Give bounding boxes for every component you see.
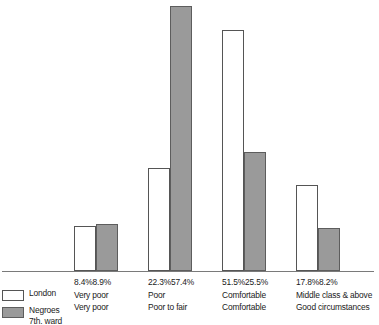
bar-negroes-poor <box>170 6 192 271</box>
legend-label-negroes-line1: Negroes <box>29 305 60 315</box>
bar-negroes-comfortable <box>244 152 266 271</box>
value-label-negroes-poor: 57.4% <box>171 277 194 287</box>
bar-london-comfortable <box>222 30 244 271</box>
legend: London Negroes7th. ward <box>2 289 72 323</box>
legend-label-london: London <box>29 288 56 299</box>
bar-negroes-very-poor <box>96 224 118 271</box>
bar-london-middle-class <box>296 185 318 271</box>
legend-item-london: London <box>2 289 72 305</box>
category-label-london-middle-class: Middle class & above <box>296 289 379 302</box>
value-label-negroes-comfortable: 25.5% <box>245 277 268 287</box>
legend-label-negroes-line2: 7th. ward <box>29 316 62 325</box>
value-label-london-poor: 22.3% <box>148 277 171 287</box>
category-column-middle-class: 17.8%8.2% Middle class & above Good circ… <box>296 276 379 314</box>
legend-item-negroes: Negroes7th. ward <box>2 306 72 322</box>
value-label-negroes-very-poor: 8.9% <box>93 277 112 287</box>
value-labels-middle-class: 17.8%8.2% <box>296 276 379 289</box>
value-label-negroes-middle-class: 8.2% <box>319 277 338 287</box>
legend-label-negroes: Negroes7th. ward <box>29 305 62 325</box>
category-label-negroes-middle-class: Good circumstances <box>296 301 379 314</box>
value-label-london-middle-class: 17.8% <box>296 277 319 287</box>
legend-swatch-negroes-icon <box>2 307 24 318</box>
bar-negroes-middle-class <box>318 228 340 271</box>
value-label-london-comfortable: 51.5% <box>222 277 245 287</box>
bar-london-very-poor <box>74 226 96 271</box>
x-axis-baseline <box>2 271 374 272</box>
bar-london-poor <box>148 168 170 271</box>
value-label-london-very-poor: 8.4% <box>74 277 93 287</box>
bar-chart: 8.4%8.9% Very poor Very poor 22.3%57.4% … <box>0 0 379 325</box>
legend-swatch-london-icon <box>2 290 24 301</box>
plot-area <box>0 0 379 273</box>
